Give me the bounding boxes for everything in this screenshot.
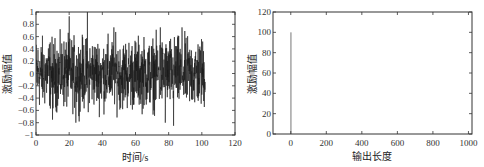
left-xtick-label: 100 bbox=[195, 138, 209, 148]
right-ytick-label: 100 bbox=[258, 27, 272, 37]
left-xtick-label: 20 bbox=[65, 138, 75, 148]
noise-signal-line bbox=[36, 12, 205, 126]
left-ytick-label: −0.2 bbox=[18, 81, 34, 91]
left-ytick-label: 0.6 bbox=[23, 32, 35, 42]
right-xtick-label: 1000 bbox=[459, 138, 478, 148]
left-ytick-label: 0.8 bbox=[23, 19, 35, 29]
right-plot: 02004006008001000020406080100120 输出长度 激励… bbox=[246, 7, 478, 162]
left-ytick-label: −0.4 bbox=[18, 93, 35, 103]
right-axes-box bbox=[273, 12, 472, 134]
right-ytick-label: 80 bbox=[262, 48, 272, 58]
right-ytick-label: 60 bbox=[262, 68, 272, 78]
left-ytick-label: −1 bbox=[24, 130, 34, 140]
right-ytick-label: 40 bbox=[262, 88, 272, 98]
right-ylabel: 激励幅值 bbox=[246, 54, 258, 94]
right-ytick-label: 120 bbox=[258, 7, 272, 17]
right-xtick-label: 600 bbox=[391, 138, 405, 148]
right-xlabel: 输出长度 bbox=[352, 150, 392, 162]
left-ytick-label: 0.2 bbox=[23, 56, 34, 66]
left-xtick-label: 80 bbox=[164, 138, 174, 148]
left-xtick-label: 60 bbox=[131, 138, 141, 148]
right-ytick-label: 20 bbox=[262, 109, 272, 119]
left-plot: 020406080100120−1−0.8−0.6−0.4−0.200.20.4… bbox=[1, 7, 242, 163]
left-xtick-label: 40 bbox=[98, 138, 108, 148]
right-xtick-label: 200 bbox=[320, 138, 334, 148]
left-xtick-label: 0 bbox=[34, 138, 39, 148]
figure: 020406080100120−1−0.8−0.6−0.4−0.200.20.4… bbox=[0, 0, 484, 167]
left-ytick-label: 0 bbox=[30, 69, 35, 79]
left-xtick-label: 120 bbox=[228, 138, 242, 148]
right-ytick-label: 0 bbox=[267, 129, 272, 139]
left-ylabel: 激励幅值 bbox=[1, 54, 13, 94]
left-xlabel: 时间/s bbox=[122, 151, 149, 163]
left-ytick-label: 1 bbox=[30, 7, 35, 17]
right-xtick-label: 0 bbox=[289, 138, 294, 148]
left-ytick-label: −0.6 bbox=[18, 105, 35, 115]
left-ytick-label: −0.8 bbox=[18, 118, 35, 128]
right-xtick-label: 400 bbox=[355, 138, 369, 148]
right-xtick-label: 800 bbox=[426, 138, 440, 148]
left-ytick-label: 0.4 bbox=[23, 44, 35, 54]
